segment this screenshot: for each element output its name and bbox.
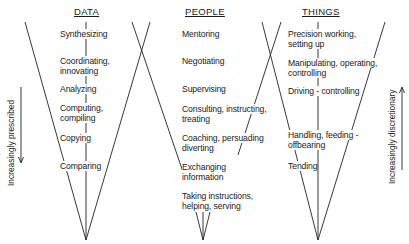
people-item: Exchanging bbox=[182, 162, 226, 172]
things-item: Manipulating, operating, bbox=[288, 58, 377, 68]
data-item: Copying bbox=[60, 133, 91, 143]
things-item: controlling bbox=[288, 68, 326, 78]
data-item: Analyzing bbox=[60, 84, 96, 94]
people-item: Taking instructions, bbox=[182, 191, 253, 201]
people-item: helping, serving bbox=[182, 201, 241, 211]
things-item: Precision working, bbox=[288, 29, 356, 39]
data-column-header: DATA bbox=[74, 6, 99, 17]
increasingly-discretionary-label: Increasingly discretionary bbox=[387, 90, 397, 185]
increasingly-prescribed-label: Increasingly prescribed bbox=[6, 100, 16, 186]
data-item: Computing, bbox=[60, 103, 103, 113]
people-item: treating bbox=[182, 114, 210, 124]
things-item: setting up bbox=[288, 39, 324, 49]
data-item: Synthesizing bbox=[60, 29, 108, 39]
people-item: information bbox=[182, 172, 223, 182]
people-item: Supervising bbox=[182, 84, 226, 94]
people-item: Negotiating bbox=[182, 56, 224, 66]
things-item: Driving - controlling bbox=[288, 86, 359, 96]
people-item: diverting bbox=[182, 143, 214, 153]
people-item: Mentoring bbox=[182, 29, 219, 39]
things-item: Tending bbox=[288, 161, 317, 171]
things-item: Handling, feeding - bbox=[288, 130, 358, 140]
people-item: Coaching, persuading bbox=[182, 133, 264, 143]
things-column-header: THINGS bbox=[302, 6, 340, 17]
data-item: Coordinating, bbox=[60, 56, 110, 66]
people-item: Consulting, instructing, bbox=[182, 104, 267, 114]
data-item: compiling bbox=[60, 113, 95, 123]
people-column-header: PEOPLE bbox=[185, 6, 225, 17]
data-item: Comparing bbox=[60, 161, 101, 171]
things-item: offbearing bbox=[288, 140, 325, 150]
data-item: innovating bbox=[60, 66, 98, 76]
